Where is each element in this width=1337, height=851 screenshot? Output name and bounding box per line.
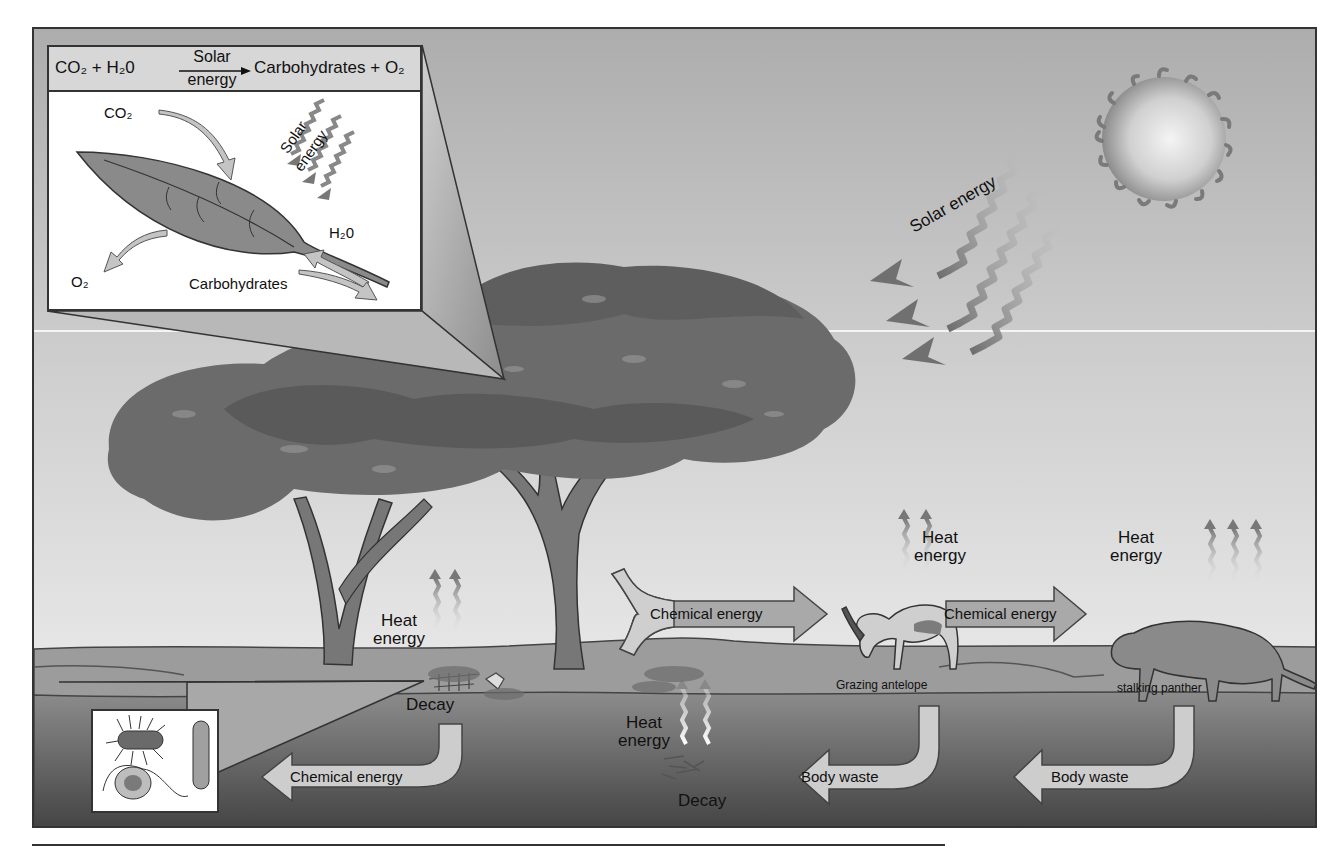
heat-energy-panther-label: Heatenergy <box>1100 529 1172 565</box>
equation-arrow-bottom: energy <box>179 72 245 89</box>
co2-label: CO₂ <box>104 105 132 121</box>
equation-products: Carbohydrates + O₂ <box>254 59 405 77</box>
o2-arrow-icon <box>104 230 167 272</box>
bottom-rule <box>32 844 945 846</box>
decay-waste-label: Decay <box>678 792 726 810</box>
carbohydrates-label: Carbohydrates <box>189 276 287 292</box>
chemical-energy-label-tree: Chemical energy <box>650 606 763 622</box>
grazing-antelope-label: Grazing antelope <box>836 679 927 692</box>
decomposers-inset <box>91 709 219 813</box>
curved-bacterium-icon <box>193 721 209 789</box>
body-waste-label-antelope: Body waste <box>801 769 879 785</box>
h2o-label: H₂0 <box>329 225 354 241</box>
decay-carcass-label: Decay <box>406 696 454 714</box>
chemical-energy-label-decomposers: Chemical energy <box>290 769 403 785</box>
photosynthesis-equation: CO₂ + H₂0 Solar energy Carbohydrates + O… <box>49 47 420 92</box>
decomposer-microbes <box>93 711 217 811</box>
heat-energy-antelope-label: Heatenergy <box>904 529 976 565</box>
heat-energy-tree-label: Heatenergy <box>364 612 434 648</box>
rod-bacterium-icon <box>118 731 163 749</box>
equation-reactants: CO₂ + H₂0 <box>55 59 135 77</box>
photosynthesis-inset: CO₂ + H₂0 Solar energy Carbohydrates + O… <box>47 45 422 311</box>
chemical-energy-label-antelope: Chemical energy <box>944 606 1057 622</box>
o2-label: O₂ <box>71 274 89 290</box>
equation-arrow-top: Solar <box>179 49 245 66</box>
body-waste-label-panther: Body waste <box>1051 769 1129 785</box>
diagram-frame: CO₂ + H₂0 Solar energy Carbohydrates + O… <box>32 27 1317 828</box>
heat-energy-soil-label: Heatenergy <box>608 714 680 750</box>
leaf-icon <box>77 152 389 287</box>
stalking-panther-label: stalking panther <box>1117 682 1202 695</box>
